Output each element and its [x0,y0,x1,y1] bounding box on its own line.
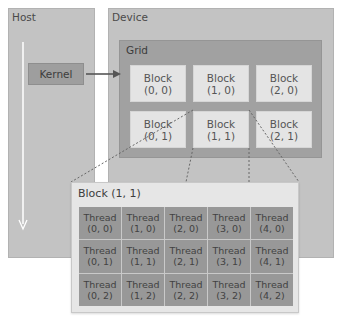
thread-coord: (3, 0) [216,223,242,234]
thread-4-1: Thread(4, 1) [251,240,293,272]
zoom-line-left [71,110,193,182]
thread-coord: (0, 0) [87,223,113,234]
block-detail-label: Block (1, 1) [78,187,141,200]
thread-title: Thread [83,212,116,223]
thread-title: Thread [83,245,116,256]
thread-2-0: Thread(2, 0) [165,207,207,239]
zoom-line-bottom-left [186,148,193,182]
thread-coord: (3, 2) [216,290,242,301]
thread-title: Thread [255,212,288,223]
thread-3-0: Thread(3, 0) [208,207,250,239]
thread-coord: (2, 2) [173,290,199,301]
thread-4-0: Thread(4, 0) [251,207,293,239]
thread-0-0: Thread(0, 0) [79,207,121,239]
thread-2-2: Thread(2, 2) [165,274,207,306]
thread-title: Thread [169,279,202,290]
thread-title: Thread [126,279,159,290]
thread-4-2: Thread(4, 2) [251,274,293,306]
thread-1-2: Thread(1, 2) [122,274,164,306]
thread-title: Thread [255,279,288,290]
thread-coord: (1, 1) [130,256,156,267]
thread-coord: (2, 0) [173,223,199,234]
thread-title: Thread [169,245,202,256]
thread-title: Thread [212,279,245,290]
thread-coord: (4, 0) [259,223,285,234]
thread-0-2: Thread(0, 2) [79,274,121,306]
thread-coord: (0, 2) [87,290,113,301]
thread-title: Thread [83,279,116,290]
thread-title: Thread [212,212,245,223]
thread-title: Thread [169,212,202,223]
thread-coord: (3, 1) [216,256,242,267]
thread-coord: (0, 1) [87,256,113,267]
thread-1-1: Thread(1, 1) [122,240,164,272]
arrowhead-icon [113,70,121,78]
thread-2-1: Thread(2, 1) [165,240,207,272]
thread-3-1: Thread(3, 1) [208,240,250,272]
thread-title: Thread [255,245,288,256]
thread-title: Thread [126,245,159,256]
thread-0-1: Thread(0, 1) [79,240,121,272]
thread-coord: (1, 0) [130,223,156,234]
thread-title: Thread [212,245,245,256]
thread-1-0: Thread(1, 0) [122,207,164,239]
zoom-line-right [249,110,299,182]
thread-grid: Thread(0, 0) Thread(1, 0) Thread(2, 0) T… [79,207,293,306]
thread-title: Thread [126,212,159,223]
thread-coord: (2, 1) [173,256,199,267]
thread-3-2: Thread(3, 2) [208,274,250,306]
block-detail-panel: Block (1, 1) Thread(0, 0) Thread(1, 0) T… [71,182,299,313]
thread-coord: (1, 2) [130,290,156,301]
thread-coord: (4, 1) [259,256,285,267]
thread-coord: (4, 2) [259,290,285,301]
